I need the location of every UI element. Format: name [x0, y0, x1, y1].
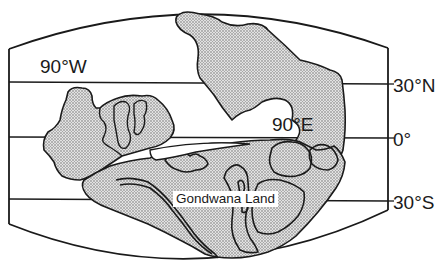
- longitude-label-90w: 90°W: [40, 57, 87, 76]
- region-label-gondwana: Gondwana Land: [173, 191, 278, 207]
- longitude-label-90e: 90°E: [272, 115, 313, 134]
- paleogeographic-map: [0, 0, 447, 276]
- latitude-label-0: 0°: [393, 130, 411, 149]
- latitude-label-30s: 30°S: [393, 193, 434, 212]
- latitude-label-30n: 30°N: [393, 76, 435, 95]
